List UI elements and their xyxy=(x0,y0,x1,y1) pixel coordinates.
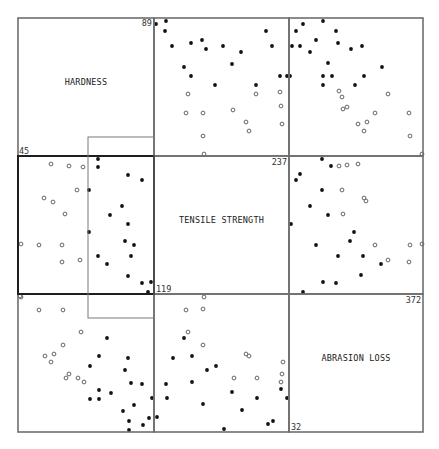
data-point-filled xyxy=(120,204,124,208)
data-point-filled xyxy=(190,380,194,384)
data-point-filled xyxy=(326,61,330,65)
panel-r3c1[interactable] xyxy=(18,294,154,432)
data-point-open xyxy=(43,354,47,358)
data-point-filled xyxy=(330,74,334,78)
data-point-filled xyxy=(189,41,193,45)
panel-r1c2[interactable] xyxy=(154,18,289,156)
data-point-open xyxy=(373,243,377,247)
data-point-open xyxy=(279,380,283,384)
data-point-open xyxy=(231,108,235,112)
data-point-filled xyxy=(336,41,340,45)
data-point-open xyxy=(201,307,205,311)
diagonal-label-abrasion-loss: ABRASION LOSS xyxy=(321,353,390,363)
data-point-open xyxy=(51,200,55,204)
data-point-filled xyxy=(96,165,100,169)
data-point-filled xyxy=(105,262,109,266)
data-point-filled xyxy=(132,243,136,247)
data-point-filled xyxy=(88,397,92,401)
data-point-filled xyxy=(361,254,365,258)
data-point-filled xyxy=(141,423,145,427)
data-point-open xyxy=(365,120,369,124)
data-point-filled xyxy=(201,402,205,406)
data-point-filled xyxy=(334,29,338,33)
data-point-open xyxy=(341,107,345,111)
data-point-filled xyxy=(97,397,101,401)
data-point-open xyxy=(281,360,285,364)
data-point-open xyxy=(186,92,190,96)
data-point-open xyxy=(337,164,341,168)
data-point-filled xyxy=(182,336,186,340)
data-point-filled xyxy=(362,74,366,78)
data-point-filled xyxy=(109,391,113,395)
data-point-filled xyxy=(149,280,153,284)
data-point-open xyxy=(42,196,46,200)
data-point-filled xyxy=(266,422,270,426)
data-point-open xyxy=(407,260,411,264)
data-point-open xyxy=(386,92,390,96)
data-point-filled xyxy=(321,280,325,284)
data-point-filled xyxy=(96,254,100,258)
panel-r2c3[interactable] xyxy=(289,156,423,294)
data-point-filled xyxy=(127,419,131,423)
panel-r1c1[interactable] xyxy=(18,18,154,156)
brush-rectangle[interactable] xyxy=(88,137,154,318)
data-point-filled xyxy=(360,44,364,48)
data-point-filled xyxy=(205,368,209,372)
data-point-filled xyxy=(298,172,302,176)
data-point-open xyxy=(61,343,65,347)
data-point-open xyxy=(345,163,349,167)
data-point-filled xyxy=(321,74,325,78)
data-point-open xyxy=(76,376,80,380)
data-point-filled xyxy=(164,382,168,386)
data-point-open xyxy=(61,308,65,312)
data-point-filled xyxy=(164,19,168,23)
data-point-open xyxy=(201,343,205,347)
panel-r3c2[interactable] xyxy=(154,294,289,432)
data-point-filled xyxy=(165,396,169,400)
data-point-open xyxy=(202,295,206,299)
data-point-open xyxy=(37,308,41,312)
tensile-min-label: 119 xyxy=(156,284,171,294)
panel-r2c2[interactable] xyxy=(154,156,289,294)
data-point-filled xyxy=(271,419,275,423)
data-point-open xyxy=(82,380,86,384)
data-point-open xyxy=(373,111,377,115)
data-point-open xyxy=(244,120,248,124)
data-point-filled xyxy=(348,239,352,243)
data-point-filled xyxy=(170,44,174,48)
data-point-filled xyxy=(294,29,298,33)
data-point-filled xyxy=(163,29,167,33)
data-point-filled xyxy=(97,388,101,392)
data-point-filled xyxy=(108,213,112,217)
data-point-filled xyxy=(254,83,258,87)
data-point-filled xyxy=(314,243,318,247)
data-point-filled xyxy=(321,83,325,87)
data-point-open xyxy=(201,111,205,115)
panel-r2c1[interactable] xyxy=(18,156,154,294)
data-point-open xyxy=(184,111,188,115)
data-point-open xyxy=(63,212,67,216)
panel-r1c3[interactable] xyxy=(289,18,423,156)
data-point-open xyxy=(345,105,349,109)
data-point-filled xyxy=(171,356,175,360)
data-point-open xyxy=(340,95,344,99)
data-point-filled xyxy=(320,157,324,161)
diagonal-label-tensile-strength: TENSILE STRENGTH xyxy=(179,215,264,225)
panel-r3c3[interactable] xyxy=(289,294,423,432)
data-point-open xyxy=(280,122,284,126)
data-point-open xyxy=(356,162,360,166)
data-point-open xyxy=(60,260,64,264)
data-point-filled xyxy=(190,354,194,358)
data-point-filled xyxy=(279,387,283,391)
data-point-filled xyxy=(147,416,151,420)
data-point-open xyxy=(67,164,71,168)
data-point-open xyxy=(79,330,83,334)
data-point-open xyxy=(52,352,56,356)
data-point-open xyxy=(280,372,284,376)
data-point-open xyxy=(279,104,283,108)
data-point-filled xyxy=(329,164,333,168)
data-point-open xyxy=(386,258,390,262)
data-point-filled xyxy=(221,44,225,48)
data-point-filled xyxy=(204,47,208,51)
data-point-open xyxy=(49,360,53,364)
